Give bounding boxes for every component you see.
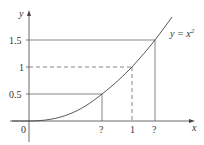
x-tick-q2: ? [152, 124, 157, 135]
x-tick-1: 1 [130, 124, 135, 135]
y-axis-label: y [18, 8, 24, 19]
x-tick-q1: ? [99, 124, 104, 135]
origin-label: 0 [21, 124, 26, 135]
y-tick-1.5: 1.5 [9, 35, 22, 46]
curve-equation: y = x2 [169, 27, 195, 39]
x-axis-label: x [191, 122, 197, 133]
y-axis-arrow-icon [27, 10, 31, 16]
parabola-diagram: y x 0 0.5 1 1.5 ? 1 ? y = x2 [0, 0, 204, 145]
parabola-curve [12, 17, 172, 121]
y-tick-0.5: 0.5 [9, 89, 22, 100]
y-tick-1: 1 [19, 62, 24, 73]
